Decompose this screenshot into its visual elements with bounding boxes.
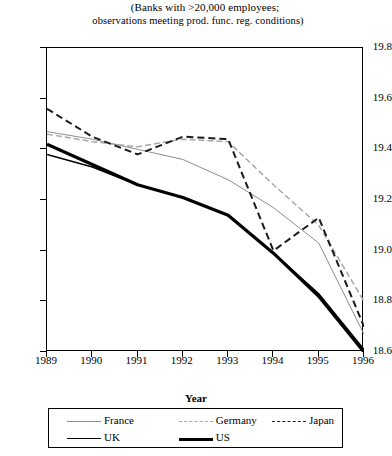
legend-row-2: UK US <box>49 429 342 446</box>
legend-swatch-uk-icon <box>67 434 101 442</box>
series-line-germany <box>47 134 364 301</box>
x-axis-title: Year <box>0 392 392 404</box>
legend-swatch-germany-icon <box>179 417 213 425</box>
legend-swatch-japan-icon <box>272 417 306 425</box>
legend-item-germany[interactable]: Germany <box>179 412 272 429</box>
line-chart: (Banks with >20,000 employees; observati… <box>0 0 392 456</box>
legend: France Germany Japan UK US <box>48 408 343 448</box>
legend-label-germany: Germany <box>216 415 257 426</box>
legend-swatch-france-icon <box>67 417 101 425</box>
legend-item-france[interactable]: France <box>49 412 179 429</box>
legend-item-uk[interactable]: UK <box>49 429 179 446</box>
legend-swatch-us-icon <box>179 434 213 442</box>
legend-label-uk: UK <box>104 432 120 443</box>
legend-label-japan: Japan <box>309 415 334 426</box>
series-line-us <box>47 144 364 352</box>
chart-title-line-2: observations meeting prod. func. reg. co… <box>0 14 392 27</box>
legend-item-us[interactable]: US <box>179 429 272 446</box>
legend-row-1: France Germany Japan <box>49 412 342 429</box>
chart-title-line-1: (Banks with >20,000 employees; <box>0 1 392 14</box>
series-line-uk <box>47 154 364 349</box>
series-paths <box>47 48 364 352</box>
legend-label-us: US <box>216 432 230 443</box>
chart-title: (Banks with >20,000 employees; observati… <box>0 1 392 27</box>
legend-item-japan[interactable]: Japan <box>272 412 342 429</box>
legend-label-france: France <box>104 415 134 426</box>
legend-spacer <box>272 429 342 446</box>
plot-area <box>46 47 363 351</box>
series-line-france <box>47 132 364 335</box>
